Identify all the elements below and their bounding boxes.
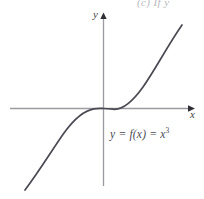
equation-exponent: 3	[166, 126, 170, 135]
y-axis-label: y	[93, 8, 98, 20]
equation-annotation: y = f(x) = x3	[110, 126, 170, 140]
cubic-function-figure: (c) If y y x y = f(x) = x3	[0, 0, 204, 199]
x-axis-label: x	[190, 108, 195, 120]
y-axis-arrowhead	[100, 13, 106, 20]
equation-text: y = f(x) = x	[110, 128, 166, 140]
plot-canvas	[0, 0, 204, 199]
